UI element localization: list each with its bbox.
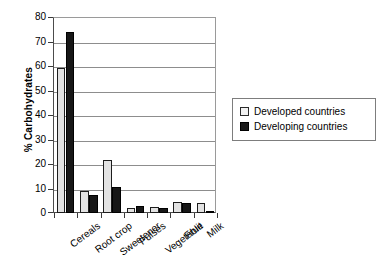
legend-item-developed[interactable]: Developed countries (240, 104, 368, 119)
x-axis-tick (101, 213, 102, 218)
bar-fruit-developed (173, 202, 182, 213)
bar-milk-developed (197, 203, 206, 213)
bar-sweetener-developing (112, 187, 121, 213)
bar-pulses-developed (127, 208, 136, 213)
bar-root-crop-developed (80, 191, 89, 213)
y-axis-label: 50 (35, 86, 46, 96)
legend-item-label: Developing countries (254, 121, 347, 132)
bar-sweetener-developed (103, 160, 112, 213)
x-axis-tick (124, 213, 125, 218)
bar-root-crop-developing (89, 195, 98, 213)
carbohydrates-bar-chart: % Carbohydrates 01020304050607080 Cereal… (0, 0, 386, 272)
y-axis-label: 40 (35, 110, 46, 120)
y-axis-ticks: 01020304050607080 (0, 17, 53, 213)
x-axis-tick (194, 213, 195, 218)
y-axis-label: 10 (35, 184, 46, 194)
bar-milk-developing (206, 211, 215, 213)
legend-item-label: Developed countries (254, 106, 345, 117)
bar-vegetable-developed (150, 207, 159, 213)
bar-fruit-developing (182, 203, 191, 213)
x-axis-tick (77, 213, 78, 218)
x-axis-tick (54, 213, 55, 218)
bar-pulses-developing (136, 206, 145, 213)
x-axis-label-milk: Milk (204, 220, 225, 239)
x-axis-tick (147, 213, 148, 218)
bars-layer (54, 17, 216, 213)
y-axis-label: 30 (35, 135, 46, 145)
y-axis-label: 70 (35, 37, 46, 47)
bar-cereals-developed (57, 68, 66, 213)
legend-item-developing[interactable]: Developing countries (240, 119, 368, 134)
x-axis-tick (170, 213, 171, 218)
y-axis-label: 80 (35, 12, 46, 22)
legend-swatch-icon (240, 122, 249, 131)
chart-legend: Developed countriesDeveloping countries (232, 98, 376, 141)
y-axis-label: 60 (35, 61, 46, 71)
bar-cereals-developing (66, 32, 75, 213)
bar-vegetable-developing (159, 208, 168, 213)
y-axis-label: 0 (40, 208, 46, 218)
x-axis-tick (217, 213, 218, 218)
y-axis-label: 20 (35, 159, 46, 169)
legend-swatch-icon (240, 107, 249, 116)
